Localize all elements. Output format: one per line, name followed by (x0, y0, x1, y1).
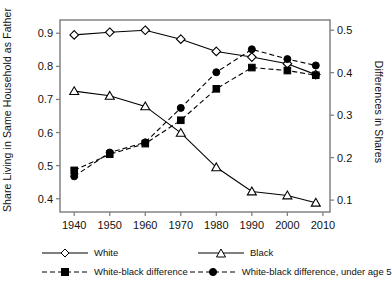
marker-open-diamond (212, 47, 221, 56)
legend-key-open-diamond-icon (40, 246, 90, 260)
marker-open-diamond (176, 35, 185, 44)
x-tick-label: 1970 (169, 219, 193, 231)
x-tick-label: 1940 (62, 219, 86, 231)
marker-filled-circle (248, 46, 255, 53)
series-4 (71, 46, 320, 180)
marker-open-diamond (70, 31, 79, 40)
marker-open-triangle (70, 87, 79, 95)
x-tick-label: 1950 (97, 219, 121, 231)
y-tick-label: 0.4 (38, 193, 53, 205)
marker-filled-circle (213, 69, 220, 76)
legend-item-white[interactable]: White (40, 243, 196, 262)
marker-open-diamond (248, 53, 257, 62)
marker-filled-circle (106, 149, 113, 156)
marker-filled-square (249, 64, 256, 71)
y2-tick-label: 0.1 (337, 194, 352, 206)
y2-tick-label: 0.2 (337, 152, 352, 164)
legend-label-black: Black (246, 247, 273, 258)
series-line (74, 30, 316, 74)
x-tick-label: 2000 (275, 219, 299, 231)
legend-row-2: White-black difference White-black diffe… (40, 262, 380, 281)
x-tick-label: 2010 (311, 219, 335, 231)
series-1 (70, 26, 320, 79)
marker-filled-circle (177, 104, 184, 111)
series-3 (71, 64, 319, 173)
series-2 (70, 87, 321, 206)
x-tick-label: 1980 (204, 219, 228, 231)
legend-key-filled-circle-icon (188, 265, 238, 279)
legend-key-filled-square-icon (40, 265, 90, 279)
legend-row-1: White Black (40, 243, 380, 262)
y-tick-label: 0.8 (38, 60, 53, 72)
marker-filled-square (177, 117, 184, 124)
legend-label-white-black-difference: White-black difference (90, 266, 188, 277)
y-tick-label: 0.6 (38, 127, 53, 139)
marker-open-diamond (141, 26, 150, 35)
y-tick-label: 0.7 (38, 93, 53, 105)
legend-label-white: White (90, 247, 118, 258)
legend-key-open-triangle-icon (196, 246, 246, 260)
legend-item-white-black-difference[interactable]: White-black difference (40, 262, 188, 281)
marker-open-triangle (176, 128, 185, 136)
legend-item-white-black-difference-under-age-5[interactable]: White-black difference, under age 5 (188, 262, 392, 281)
marker-filled-square (312, 72, 319, 79)
y-tick-label: 0.9 (38, 27, 53, 39)
marker-open-triangle (247, 187, 256, 195)
legend-label-white-black-difference-under-age-5: White-black difference, under age 5 (238, 266, 392, 277)
marker-filled-circle (142, 139, 149, 146)
chart-legend: White Black White-black difference (40, 243, 380, 281)
marker-filled-circle (312, 62, 319, 69)
legend-item-black[interactable]: Black (196, 243, 273, 262)
marker-filled-square (284, 67, 291, 74)
marker-open-diamond (105, 28, 114, 37)
y2-tick-label: 0.5 (337, 24, 352, 36)
y2-tick-label: 0.4 (337, 67, 352, 79)
y2-tick-label: 0.3 (337, 109, 352, 121)
x-tick-label: 1960 (133, 219, 157, 231)
marker-filled-circle (71, 173, 78, 180)
plot-frame (60, 20, 330, 212)
x-tick-label: 1990 (240, 219, 264, 231)
marker-filled-circle (284, 56, 291, 63)
marker-filled-square (213, 86, 220, 93)
y-tick-label: 0.5 (38, 160, 53, 172)
